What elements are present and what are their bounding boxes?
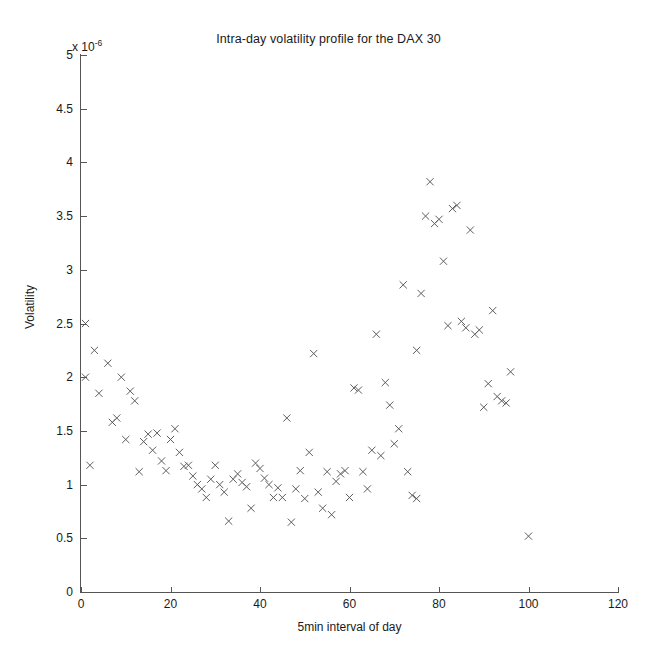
scatter-marker bbox=[86, 462, 93, 469]
scatter-marker bbox=[480, 404, 487, 411]
scatter-marker bbox=[145, 431, 152, 438]
scatter-marker bbox=[221, 489, 228, 496]
y-axis-tick-label: 2 bbox=[31, 370, 73, 384]
scatter-marker bbox=[359, 468, 366, 475]
scatter-marker bbox=[462, 324, 469, 331]
scatter-series bbox=[82, 178, 532, 540]
y-axis-tick bbox=[81, 538, 87, 539]
scatter-marker bbox=[104, 360, 111, 367]
scatter-marker bbox=[382, 379, 389, 386]
x-axis-tick-label: 100 bbox=[499, 597, 559, 611]
scatter-marker bbox=[449, 205, 456, 212]
scatter-marker bbox=[368, 447, 375, 454]
y-axis-tick-label: 4.5 bbox=[31, 102, 73, 116]
y-axis-tick bbox=[81, 377, 87, 378]
scatter-marker bbox=[283, 414, 290, 421]
scatter-marker bbox=[247, 505, 254, 512]
scatter-marker bbox=[435, 216, 442, 223]
scatter-marker bbox=[306, 449, 313, 456]
x-axis-tick bbox=[618, 587, 619, 593]
exponent-power: -6 bbox=[95, 38, 103, 48]
scatter-marker bbox=[391, 440, 398, 447]
scatter-marker bbox=[297, 467, 304, 474]
scatter-marker bbox=[440, 258, 447, 265]
scatter-marker bbox=[332, 478, 339, 485]
scatter-marker bbox=[444, 322, 451, 329]
scatter-marker bbox=[131, 397, 138, 404]
scatter-marker bbox=[149, 447, 156, 454]
scatter-marker bbox=[243, 483, 250, 490]
scatter-marker bbox=[373, 331, 380, 338]
scatter-marker bbox=[319, 505, 326, 512]
x-axis-label: 5min interval of day bbox=[81, 620, 618, 634]
scatter-marker bbox=[525, 533, 532, 540]
scatter-marker bbox=[422, 213, 429, 220]
matlab-figure-scatter-plot: Intra-day volatility profile for the DAX… bbox=[0, 0, 657, 666]
scatter-marker bbox=[386, 402, 393, 409]
y-axis-tick bbox=[81, 324, 87, 325]
scatter-marker bbox=[346, 494, 353, 501]
scatter-marker bbox=[328, 511, 335, 518]
scatter-marker bbox=[341, 467, 348, 474]
scatter-marker bbox=[467, 226, 474, 233]
scatter-marker bbox=[234, 470, 241, 477]
y-axis-tick bbox=[81, 270, 87, 271]
scatter-marker bbox=[377, 452, 384, 459]
scatter-marker bbox=[453, 202, 460, 209]
scatter-marker bbox=[216, 481, 223, 488]
y-axis-tick-label: 3 bbox=[31, 263, 73, 277]
scatter-marker bbox=[431, 220, 438, 227]
scatter-marker bbox=[503, 399, 510, 406]
scatter-marker bbox=[239, 479, 246, 486]
scatter-marker bbox=[413, 347, 420, 354]
scatter-marker bbox=[230, 476, 237, 483]
y-axis-tick-label: 1.5 bbox=[31, 424, 73, 438]
scatter-marker bbox=[301, 495, 308, 502]
scatter-marker bbox=[167, 436, 174, 443]
scatter-marker bbox=[203, 494, 210, 501]
scatter-marker bbox=[395, 425, 402, 432]
x-axis-tick-label: 20 bbox=[141, 597, 201, 611]
exponent-prefix: x 10 bbox=[72, 40, 95, 54]
scatter-marker bbox=[109, 419, 116, 426]
y-axis-tick bbox=[81, 216, 87, 217]
scatter-marker bbox=[225, 518, 232, 525]
scatter-marker bbox=[256, 465, 263, 472]
scatter-marker bbox=[207, 476, 214, 483]
scatter-marker bbox=[364, 485, 371, 492]
scatter-marker bbox=[212, 462, 219, 469]
scatter-marker bbox=[180, 463, 187, 470]
scatter-marker bbox=[265, 481, 272, 488]
scatter-marker bbox=[350, 384, 357, 391]
scatter-marker bbox=[261, 475, 268, 482]
scatter-marker bbox=[418, 290, 425, 297]
y-axis-tick bbox=[81, 109, 87, 110]
y-axis-tick-label: 5 bbox=[31, 48, 73, 62]
scatter-marker bbox=[122, 436, 129, 443]
y-axis-tick bbox=[81, 431, 87, 432]
scatter-marker bbox=[315, 489, 322, 496]
scatter-marker bbox=[489, 307, 496, 314]
scatter-marker bbox=[400, 281, 407, 288]
scatter-marker bbox=[185, 462, 192, 469]
scatter-marker bbox=[409, 492, 416, 499]
y-axis-tick bbox=[81, 162, 87, 163]
y-axis-tick-label: 1 bbox=[31, 478, 73, 492]
scatter-markers bbox=[0, 0, 657, 666]
x-axis-tick bbox=[260, 587, 261, 593]
scatter-marker bbox=[171, 425, 178, 432]
scatter-marker bbox=[158, 457, 165, 464]
scatter-marker bbox=[113, 414, 120, 421]
scatter-marker bbox=[310, 350, 317, 357]
scatter-marker bbox=[194, 481, 201, 488]
y-axis-tick-label: 2.5 bbox=[31, 317, 73, 331]
x-axis-tick-label: 120 bbox=[588, 597, 648, 611]
y-axis-exponent-label: x 10-6 bbox=[72, 38, 102, 54]
x-axis-tick bbox=[350, 587, 351, 593]
scatter-marker bbox=[140, 438, 147, 445]
scatter-marker bbox=[404, 468, 411, 475]
scatter-marker bbox=[270, 494, 277, 501]
scatter-marker bbox=[426, 178, 433, 185]
scatter-marker bbox=[91, 347, 98, 354]
scatter-marker bbox=[288, 519, 295, 526]
